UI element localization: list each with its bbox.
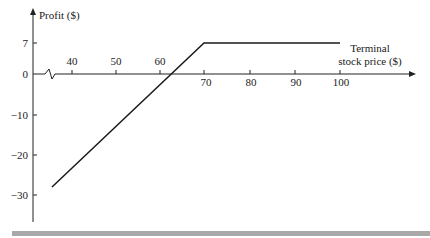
x-tick-50: 50 xyxy=(111,55,123,67)
x-ticks xyxy=(72,70,340,74)
y-tick-0: 0 xyxy=(23,68,29,80)
y-tick-minus30: −30 xyxy=(11,189,29,201)
x-tick-80: 80 xyxy=(246,76,258,88)
y-tick-7: 7 xyxy=(23,37,29,49)
x-tick-90: 90 xyxy=(291,76,303,88)
profit-line xyxy=(52,43,340,187)
x-axis-label-line2: stock price ($) xyxy=(338,55,402,68)
x-axis-arrow-icon xyxy=(409,71,416,77)
x-tick-70: 70 xyxy=(201,76,213,88)
y-ticks xyxy=(33,43,37,195)
y-axis-label: Profit ($) xyxy=(39,9,80,22)
x-axis-label-line1: Terminal xyxy=(350,42,390,54)
y-tick-minus10: −10 xyxy=(11,109,29,121)
axis-break-icon xyxy=(45,69,55,79)
footer-divider-bar xyxy=(12,231,430,236)
profit-chart: Profit ($) Terminal stock price ($) 40 5… xyxy=(0,0,430,238)
x-tick-100: 100 xyxy=(333,76,350,88)
y-axis-arrow-icon xyxy=(30,8,36,15)
x-tick-60: 60 xyxy=(155,55,167,67)
y-tick-minus20: −20 xyxy=(11,149,29,161)
x-tick-40: 40 xyxy=(67,55,79,67)
